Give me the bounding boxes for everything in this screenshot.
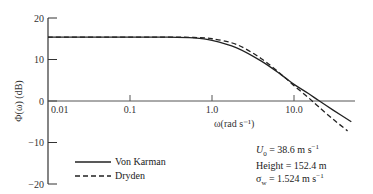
x-axis-title: ω(rad s⁻¹)	[214, 118, 254, 130]
x-tick-label: 10.0	[285, 104, 303, 115]
von-karman-line	[48, 37, 351, 122]
annotation-u0: U0 = 38.6 m s−1	[256, 142, 327, 160]
legend: Von Karman Dryden	[75, 156, 166, 181]
y-tick-label: −10	[28, 137, 44, 148]
annotation-sigma: σw = 1.524 m s−1	[256, 171, 327, 189]
annotation-height: Height = 152.4 m	[256, 160, 327, 171]
x-ticks: 0.010.11.010.0	[51, 95, 303, 115]
x-tick-label: 0.01	[51, 104, 69, 115]
y-tick-label: 10	[34, 54, 44, 65]
y-tick-label: 20	[34, 13, 44, 24]
y-tick-label: −20	[28, 179, 44, 190]
parameters-annotation: U0 = 38.6 m s−1 Height = 152.4 m σw = 1.…	[256, 142, 327, 190]
x-tick-label: 0.1	[124, 104, 137, 115]
legend-dryden: Dryden	[115, 170, 145, 181]
dryden-line	[48, 37, 348, 131]
y-tick-label: 0	[39, 96, 44, 107]
legend-von-karman: Von Karman	[115, 156, 166, 167]
y-axis-title: Φ(ω) (dB)	[13, 80, 25, 121]
x-tick-label: 1.0	[206, 104, 219, 115]
